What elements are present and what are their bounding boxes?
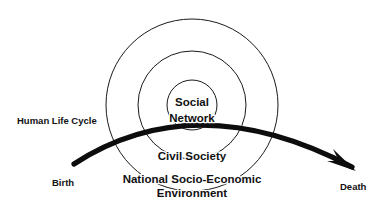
- label-death: Death: [340, 181, 367, 192]
- concentric-circles-diagram: Social Network Civil Society National So…: [0, 0, 385, 223]
- arrow-head-icon: [327, 149, 356, 171]
- label-national-socio-economic-environment-line1: National Socio-Economic: [123, 173, 262, 185]
- label-network: Network: [169, 112, 215, 124]
- label-birth: Birth: [52, 177, 74, 188]
- diagram-canvas: Social Network Civil Society National So…: [0, 0, 385, 223]
- label-national-socio-economic-environment-line2: Environment: [157, 187, 227, 199]
- label-civil-society: Civil Society: [158, 150, 227, 162]
- label-social: Social: [175, 96, 209, 108]
- label-human-life-cycle: Human Life Cycle: [17, 115, 97, 126]
